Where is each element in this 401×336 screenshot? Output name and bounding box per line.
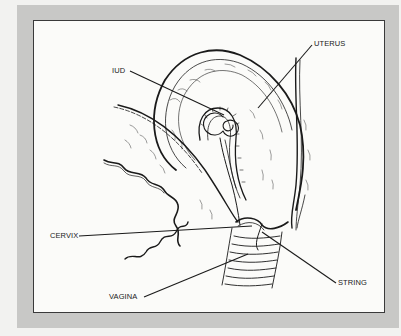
vagina-tissue xyxy=(222,228,282,288)
iud-leader-line xyxy=(130,71,224,115)
bladder-wavy-edge xyxy=(104,160,180,246)
uterus-leader-line xyxy=(258,45,312,108)
uterine-cavity xyxy=(199,108,246,200)
posterior-uterine-wall xyxy=(291,58,297,228)
vagina-leader-line xyxy=(144,254,248,297)
label-vagina: VAGINA xyxy=(109,293,137,301)
label-cervix: CERVIX xyxy=(50,232,78,240)
uterus-outline xyxy=(154,50,303,210)
string-leader-line xyxy=(262,232,336,283)
label-iud: IUD xyxy=(112,67,125,75)
label-uterus: UTERUS xyxy=(314,40,345,48)
label-string: STRING xyxy=(338,279,367,287)
cervix-leader-line xyxy=(79,226,252,236)
iud-device xyxy=(204,113,240,225)
